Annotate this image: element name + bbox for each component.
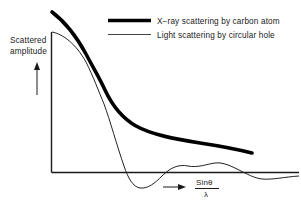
- x-axis-label-group: Sinθ λ: [163, 178, 219, 199]
- y-axis-label-line1: Scattered: [10, 36, 47, 45]
- right-arrow-icon: [163, 184, 186, 190]
- up-arrow-icon: [34, 62, 40, 95]
- legend-label-xray: X−ray scattering by carbon atom: [157, 17, 280, 26]
- y-axis-label-line2: amplitude: [10, 47, 47, 56]
- legend-label-light: Light scattering by circular hole: [157, 31, 275, 40]
- y-axis-label-group: Scattered amplitude: [10, 36, 47, 95]
- curve-light-circular-hole: [52, 32, 299, 188]
- x-axis-label-denominator: λ: [204, 190, 208, 199]
- legend: X−ray scattering by carbon atom Light sc…: [108, 17, 280, 40]
- scattering-comparison-figure: X−ray scattering by carbon atom Light sc…: [0, 0, 301, 208]
- x-axis-label-numerator: Sinθ: [196, 178, 213, 187]
- axis-group: [52, 32, 300, 173]
